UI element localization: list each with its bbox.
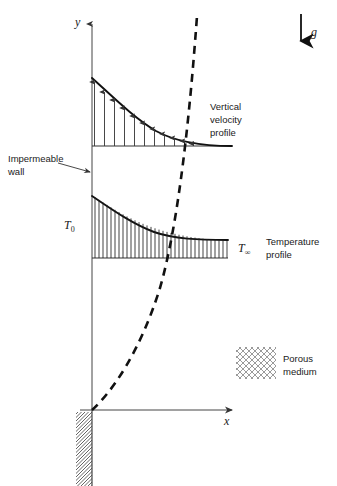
impermeable-wall-leader [58,163,90,172]
temperature-hatching [95,197,227,258]
y-axis-label: y [74,15,81,29]
velocity-arrows [95,82,194,146]
x-axis-label: x [223,414,230,428]
velocity-profile-label-line2: velocity [210,114,242,125]
diagram-canvas: y x g T0 T∞ Vertical velocity profile Te… [0,0,337,486]
boundary-layer-dashed-curve [92,16,197,410]
ambient-temperature-label: T∞ [238,241,251,257]
temperature-profile-label-line1: Temperature [266,236,319,247]
temperature-profile-label-line2: profile [266,249,292,260]
porous-medium-label-line2: medium [283,366,317,377]
velocity-profile-label-line3: profile [210,127,236,138]
porous-medium-label-line1: Porous [283,353,313,364]
porous-medium-swatch [236,347,276,379]
temperature-profile-group [92,196,228,258]
impermeable-wall-label-line1: Impermeable [8,153,63,164]
gravity-label: g [311,25,317,39]
figure-root: y x g T0 T∞ Vertical velocity profile Te… [0,0,337,486]
impermeable-wall-hatching [76,410,92,486]
velocity-profile-label-line1: Vertical [210,101,241,112]
impermeable-wall-label-line2: wall [7,166,24,177]
wall-temperature-label: T0 [64,218,75,234]
